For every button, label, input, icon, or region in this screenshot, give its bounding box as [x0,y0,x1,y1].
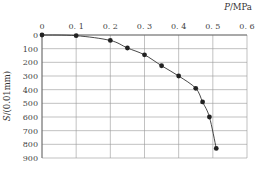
data-point [193,86,198,91]
svg-text:200: 200 [23,58,38,67]
svg-text:500: 500 [23,99,38,108]
data-point [214,146,219,151]
svg-text:0. 5: 0. 5 [205,22,220,31]
data-point [207,115,212,120]
svg-text:0. 2: 0. 2 [103,22,118,31]
ps-curve-chart: 00. 10. 20. 30. 40. 50. 6 01002003004005… [0,0,261,173]
data-point [159,63,164,68]
data-point [200,100,205,105]
data-point [176,74,181,79]
svg-text:0: 0 [39,22,44,31]
data-point [125,46,130,51]
svg-text:100: 100 [23,45,38,54]
y-axis-label: S/(0.01mm) [2,71,12,121]
svg-text:0. 4: 0. 4 [171,22,186,31]
x-axis-label: P/MPa [223,2,252,12]
svg-text:600: 600 [23,113,38,122]
data-point [108,38,113,43]
svg-text:300: 300 [23,72,38,81]
x-axis-ticks: 00. 10. 20. 30. 40. 50. 6 [39,22,254,31]
data-point [74,33,79,38]
y-axis-ticks: 0100200300400500600700800900 [23,31,38,163]
svg-text:800: 800 [23,140,38,149]
svg-text:900: 900 [23,154,38,163]
data-point [40,33,45,38]
svg-text:0: 0 [33,31,38,40]
svg-text:0. 3: 0. 3 [137,22,152,31]
data-points [40,33,219,151]
svg-text:0. 6: 0. 6 [239,22,254,31]
svg-text:700: 700 [23,127,38,136]
data-point [142,52,147,57]
svg-text:400: 400 [23,86,38,95]
data-curve [42,35,216,148]
svg-text:0. 1: 0. 1 [69,22,84,31]
